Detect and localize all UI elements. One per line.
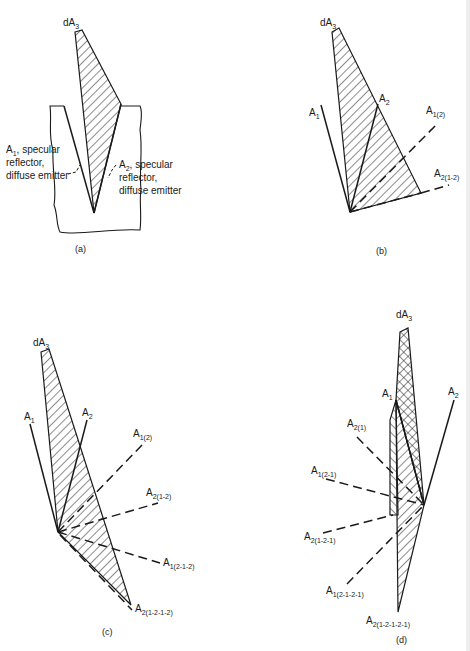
view-region-hatched bbox=[332, 28, 421, 212]
label-A2-1-2: A2(1-2) bbox=[146, 487, 171, 501]
label-dA3: dA3 bbox=[33, 337, 49, 350]
label-A2-desc-line3: diffuse emitter bbox=[119, 185, 182, 196]
leader-A2 bbox=[108, 165, 116, 178]
caption-a: (a) bbox=[75, 244, 86, 254]
label-A1-2: A1(2) bbox=[426, 105, 445, 119]
image-A2-1-2 bbox=[421, 185, 449, 193]
caption-c: (c) bbox=[102, 627, 113, 637]
label-A2-1-2: A2(1-2) bbox=[434, 168, 459, 182]
label-A1: A1 bbox=[309, 107, 320, 120]
view-region-hatched bbox=[41, 349, 131, 605]
panel-a: dA3 A1, specular reflector, diffuse emit… bbox=[6, 17, 182, 254]
label-A1-2: A1(2) bbox=[133, 428, 152, 442]
label-A1-2-1: A1(2-1) bbox=[311, 465, 336, 479]
view-region-hatched bbox=[75, 30, 121, 213]
label-dA3: dA3 bbox=[396, 309, 412, 322]
leader-A1 bbox=[68, 165, 80, 174]
panel-b: dA3 A1 A2 A1(2) A2(1-2) (b) bbox=[309, 17, 459, 256]
label-A2: A2 bbox=[82, 407, 93, 420]
label-A2-desc-line2: reflector, bbox=[119, 172, 157, 183]
label-A2-1-2-1: A2(1-2-1) bbox=[304, 531, 336, 545]
surface-A2 bbox=[424, 400, 454, 505]
label-A1: A1 bbox=[382, 388, 393, 401]
label-A2-1: A2(1) bbox=[347, 418, 366, 432]
image-A2-1-2-1 bbox=[323, 515, 393, 533]
label-dA3: dA3 bbox=[63, 17, 79, 30]
caption-b: (b) bbox=[376, 246, 387, 256]
label-A2-1-2-1-2-1: A2(1-2-1-2-1) bbox=[366, 615, 410, 629]
caption-d: (d) bbox=[396, 635, 407, 645]
label-A1-desc-line3: diffuse emitter bbox=[6, 170, 69, 181]
label-A1-2-1-2: A1(2-1-2) bbox=[163, 557, 195, 571]
label-A1: A1 bbox=[24, 411, 35, 424]
label-A2: A2 bbox=[379, 93, 390, 106]
label-A2: A2 bbox=[448, 386, 459, 399]
label-dA3: dA3 bbox=[320, 17, 336, 30]
label-A2-desc: A2, specular bbox=[119, 159, 174, 172]
panel-d: dA3 A1 A2 A2(1) A1(2-1) A2(1-2-1) A1(2-1… bbox=[304, 309, 459, 645]
figure-canvas: dA3 A1, specular reflector, diffuse emit… bbox=[0, 0, 470, 651]
panel-c: dA3 A1 A2 A1(2) A2(1-2) A1(2-1-2) A2(1-2… bbox=[24, 337, 195, 637]
label-A1-desc-line2: reflector, bbox=[6, 157, 44, 168]
label-A1-2-1-2-1: A1(2-1-2-1) bbox=[326, 585, 364, 599]
label-A2-1-2-1-2: A2(1-2-1-2) bbox=[135, 603, 173, 617]
page-edge bbox=[466, 0, 470, 651]
